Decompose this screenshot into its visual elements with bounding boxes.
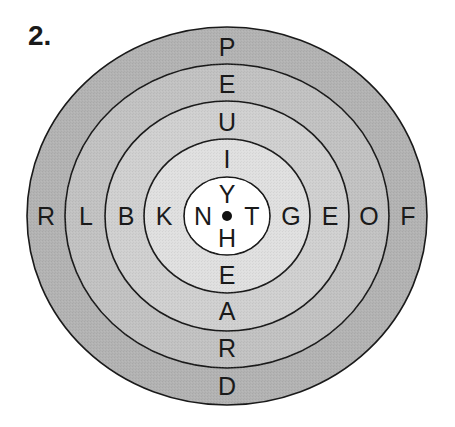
ring-letter: G (281, 202, 300, 230)
ring-letter: E (219, 70, 236, 98)
ring-letter: I (224, 145, 231, 173)
ring-letter: O (359, 202, 378, 230)
ring-letter: R (37, 202, 55, 230)
ring-letter: K (156, 202, 173, 230)
concentric-letter-target: PEUIYHEARDRLBKNTGEOF (0, 0, 455, 427)
ring-letter: U (218, 108, 236, 136)
ring-letter: E (219, 261, 236, 289)
ring-letter: T (244, 202, 259, 230)
ring-letter: D (218, 372, 236, 400)
ring-letter: N (194, 202, 212, 230)
ring-letter: F (400, 202, 415, 230)
ring-letter: Y (219, 180, 236, 208)
center-dot (222, 211, 232, 221)
ring-letter: H (218, 224, 236, 252)
ring-letter: B (118, 202, 135, 230)
ring-letter: E (322, 202, 339, 230)
ring-letter: R (218, 334, 236, 362)
ring-letter: L (79, 202, 93, 230)
ring-letter: P (219, 33, 236, 61)
ring-letter: A (219, 297, 236, 325)
